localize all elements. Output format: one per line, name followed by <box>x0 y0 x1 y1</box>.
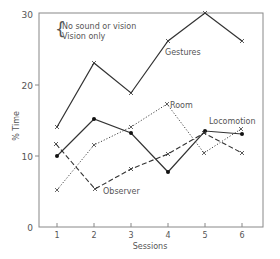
x-tick-1: 1 <box>54 231 59 240</box>
y-axis <box>35 85 39 156</box>
y-tick-0: 0 <box>27 223 33 233</box>
legend-entry-vision-only: Vision only <box>62 32 106 41</box>
legend: { No sound or vision Vision only <box>55 19 136 41</box>
x-tick-3: 3 <box>128 231 133 240</box>
x-axis <box>57 223 242 227</box>
x-tick-6: 6 <box>239 231 244 240</box>
y-tick-20: 20 <box>22 81 34 91</box>
line-chart: 30 20 10 0 % Time 1 2 3 4 5 6 Sessions {… <box>0 0 280 259</box>
y-tick-10: 10 <box>22 152 34 162</box>
x-tick-5: 5 <box>202 231 207 240</box>
legend-entry-no-sound: No sound or vision <box>62 22 136 31</box>
y-tick-30: 30 <box>22 10 34 20</box>
series-room-label: Room <box>170 101 193 110</box>
series-locomotion-line <box>57 119 242 172</box>
series-gestures-label: Gestures <box>165 48 201 57</box>
series-observer-markers <box>54 131 244 191</box>
x-tick-4: 4 <box>165 231 170 240</box>
x-axis-label: Sessions <box>133 242 168 251</box>
x-tick-2: 2 <box>91 231 96 240</box>
series-observer-line <box>56 133 242 189</box>
series-locomotion-label: Locomotion <box>209 117 256 126</box>
y-axis-label: % Time <box>12 111 21 141</box>
series-observer-label: Observer <box>103 187 140 196</box>
